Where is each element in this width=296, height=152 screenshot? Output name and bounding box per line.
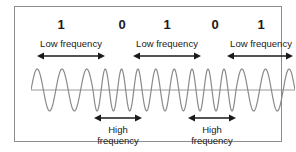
low-frequency-label: Low frequency <box>221 38 296 49</box>
low-frequency-arrow <box>125 51 209 61</box>
high-frequency-arrow <box>180 113 244 123</box>
high-frequency-label-line2: frequency <box>78 135 158 146</box>
figure-frame: 1 0 1 0 1 Low frequency Low frequency Lo… <box>14 6 282 142</box>
bit-label: 1 <box>154 18 180 32</box>
high-frequency-label-line1: High <box>172 124 252 135</box>
bit-label: 0 <box>109 18 135 32</box>
high-frequency-arrow <box>86 113 150 123</box>
low-frequency-arrow <box>29 51 113 61</box>
low-frequency-arrow <box>219 51 296 61</box>
high-frequency-label-line2: frequency <box>172 135 252 146</box>
low-frequency-label: Low frequency <box>127 38 207 49</box>
low-frequency-label: Low frequency <box>31 38 111 49</box>
bit-label: 1 <box>248 18 274 32</box>
bit-label: 1 <box>48 18 74 32</box>
bit-label: 0 <box>202 18 228 32</box>
fsk-waveform <box>31 64 295 112</box>
high-frequency-label: High frequency <box>172 124 252 146</box>
fsk-waveform-figure: 1 0 1 0 1 Low frequency Low frequency Lo… <box>0 0 296 152</box>
high-frequency-label: High frequency <box>78 124 158 146</box>
high-frequency-label-line1: High <box>78 124 158 135</box>
